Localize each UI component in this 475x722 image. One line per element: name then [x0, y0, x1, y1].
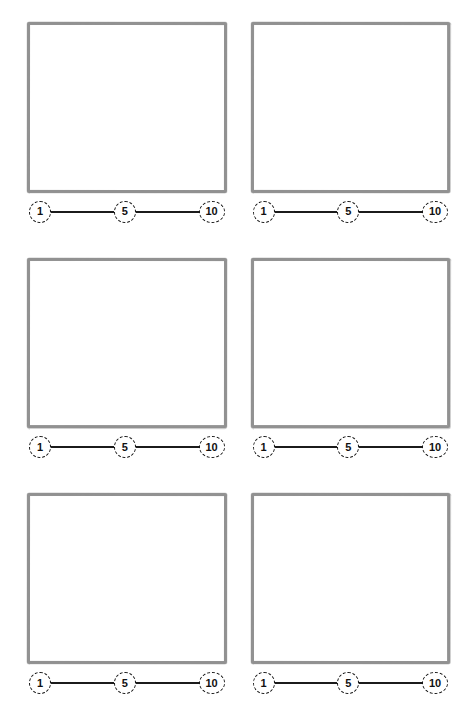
- scale-point-min[interactable]: 1: [29, 436, 51, 458]
- drawing-box[interactable]: [27, 22, 227, 193]
- scale-points: 1 5 10: [29, 436, 225, 458]
- panel-row: 1 5 10 1 5 10: [27, 493, 450, 702]
- scale-point-mid[interactable]: 5: [114, 436, 136, 458]
- panel-6: 1 5 10: [251, 493, 451, 702]
- scale-point-max[interactable]: 10: [199, 201, 225, 223]
- scale-point-mid[interactable]: 5: [337, 672, 359, 694]
- panel-5: 1 5 10: [27, 493, 227, 702]
- scale-point-min[interactable]: 1: [253, 201, 275, 223]
- panel-1: 1 5 10: [27, 22, 227, 231]
- scale-point-min[interactable]: 1: [29, 201, 51, 223]
- rating-scale[interactable]: 1 5 10: [251, 428, 451, 466]
- panel-4: 1 5 10: [251, 258, 451, 467]
- scale-point-min[interactable]: 1: [253, 672, 275, 694]
- panel-3: 1 5 10: [27, 258, 227, 467]
- scale-point-mid[interactable]: 5: [337, 201, 359, 223]
- drawing-box[interactable]: [251, 258, 451, 429]
- scale-point-max[interactable]: 10: [422, 672, 448, 694]
- drawing-box[interactable]: [251, 493, 451, 664]
- scale-points: 1 5 10: [253, 436, 449, 458]
- scale-point-max[interactable]: 10: [199, 436, 225, 458]
- rating-scale[interactable]: 1 5 10: [251, 664, 451, 702]
- scale-point-min[interactable]: 1: [253, 436, 275, 458]
- drawing-box[interactable]: [251, 22, 451, 193]
- scale-points: 1 5 10: [253, 672, 449, 694]
- scale-points: 1 5 10: [29, 672, 225, 694]
- rating-scale[interactable]: 1 5 10: [27, 428, 227, 466]
- scale-point-max[interactable]: 10: [422, 201, 448, 223]
- scale-point-min[interactable]: 1: [29, 672, 51, 694]
- scale-point-mid[interactable]: 5: [114, 201, 136, 223]
- worksheet-page: 1 5 10 1 5 10: [0, 0, 475, 722]
- scale-point-mid[interactable]: 5: [337, 436, 359, 458]
- panel-row: 1 5 10 1 5 10: [27, 258, 450, 467]
- rating-scale[interactable]: 1 5 10: [27, 193, 227, 231]
- drawing-box[interactable]: [27, 258, 227, 429]
- panel-2: 1 5 10: [251, 22, 451, 231]
- scale-points: 1 5 10: [29, 201, 225, 223]
- scale-point-mid[interactable]: 5: [114, 672, 136, 694]
- rating-scale[interactable]: 1 5 10: [27, 664, 227, 702]
- rating-scale[interactable]: 1 5 10: [251, 193, 451, 231]
- scale-point-max[interactable]: 10: [422, 436, 448, 458]
- panel-grid: 1 5 10 1 5 10: [27, 22, 450, 702]
- panel-row: 1 5 10 1 5 10: [27, 22, 450, 231]
- scale-point-max[interactable]: 10: [199, 672, 225, 694]
- scale-points: 1 5 10: [253, 201, 449, 223]
- drawing-box[interactable]: [27, 493, 227, 664]
